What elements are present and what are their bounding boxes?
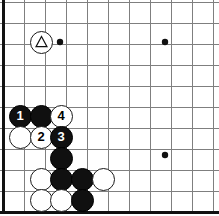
- go-stone-black[interactable]: [50, 147, 73, 170]
- stone-move-number: 4: [57, 109, 64, 122]
- go-stone-black-3[interactable]: 3: [50, 126, 73, 149]
- stone-move-number: 2: [37, 130, 44, 143]
- go-stone-black[interactable]: [71, 189, 94, 212]
- stone-layer: 1423: [0, 0, 219, 216]
- go-stone-black-1[interactable]: 1: [9, 105, 32, 128]
- go-stone-black[interactable]: [71, 168, 94, 191]
- go-stone-white[interactable]: [9, 126, 32, 149]
- go-stone-white[interactable]: [30, 31, 53, 54]
- triangle-marker-icon: [31, 31, 52, 54]
- stone-move-number: 3: [57, 130, 64, 143]
- go-stone-black[interactable]: [50, 168, 73, 191]
- go-stone-white[interactable]: [50, 189, 73, 212]
- go-stone-white-4[interactable]: 4: [50, 105, 73, 128]
- go-stone-white[interactable]: [92, 168, 115, 191]
- stone-move-number: 1: [16, 109, 23, 122]
- go-board-diagram: 1423: [0, 0, 219, 216]
